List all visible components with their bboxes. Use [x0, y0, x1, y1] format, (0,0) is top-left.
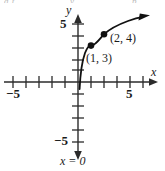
y-axis-label: y [66, 4, 71, 16]
y-tick-label-5: 5 [60, 17, 67, 30]
graph-figure: d f y p [0, 0, 165, 171]
data-point-2-4 [101, 31, 108, 38]
coordinate-plane [0, 0, 165, 171]
point-label-1-3: (1, 3) [86, 52, 112, 64]
x-tick-label-5: 5 [126, 87, 133, 100]
y-tick-label-minus5: −5 [54, 134, 68, 147]
x-axis-label: x [151, 66, 156, 78]
x-tick-label-minus5: −5 [6, 87, 20, 100]
data-point-1-3 [88, 42, 95, 49]
point-label-2-4: (2, 4) [110, 32, 136, 44]
asymptote-label: x = 0 [60, 155, 85, 167]
